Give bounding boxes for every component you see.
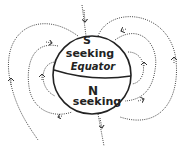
south-seeking-label: seeking bbox=[65, 48, 115, 59]
north-seeking-label: seeking bbox=[72, 96, 122, 107]
south-pole-label: S bbox=[81, 35, 93, 46]
equator-label: Equator bbox=[68, 62, 118, 72]
magnet-field-diagram: S seeking Equator N seeking bbox=[0, 0, 185, 149]
field-lines-graphic bbox=[0, 0, 185, 149]
